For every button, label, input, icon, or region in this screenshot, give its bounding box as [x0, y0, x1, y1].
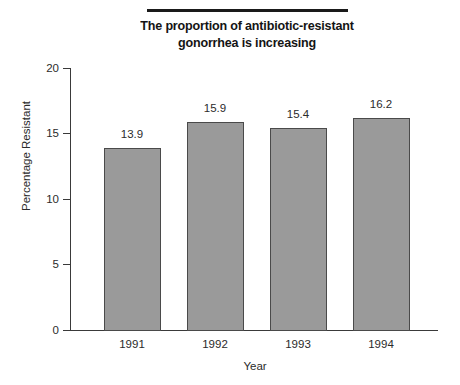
y-tick-0 — [63, 330, 71, 331]
bar-1992 — [187, 122, 244, 331]
y-tick-label-0: 0 — [25, 324, 59, 336]
bar-value-1994: 16.2 — [346, 98, 416, 110]
bar-1994 — [353, 118, 410, 331]
bar-value-1993: 15.4 — [263, 108, 333, 120]
chart-title-line-2: gonorrhea is increasing — [108, 34, 387, 51]
title-divider-rule — [147, 9, 348, 12]
bar-1993 — [270, 128, 327, 331]
x-tick-label-1991: 1991 — [97, 338, 167, 350]
y-tick-10 — [63, 199, 71, 200]
y-tick-20 — [63, 68, 71, 69]
bar-value-1991: 13.9 — [97, 128, 167, 140]
y-tick-label-20: 20 — [25, 62, 59, 74]
y-tick-5 — [63, 264, 71, 265]
y-axis-title: Percentage Resistant — [20, 76, 32, 236]
y-tick-15 — [63, 133, 71, 134]
x-tick-label-1993: 1993 — [263, 338, 333, 350]
y-tick-label-5: 5 — [25, 258, 59, 270]
chart-title-line-1: The proportion of antibiotic-resistant — [108, 17, 387, 34]
bar-value-1992: 15.9 — [180, 102, 250, 114]
x-tick-label-1994: 1994 — [346, 338, 416, 350]
chart-title: The proportion of antibiotic-resistant g… — [108, 17, 387, 51]
bar-1991 — [104, 148, 161, 331]
chart-page: The proportion of antibiotic-resistant g… — [0, 0, 460, 385]
x-tick-label-1992: 1992 — [180, 338, 250, 350]
x-axis-title: Year — [155, 360, 355, 372]
